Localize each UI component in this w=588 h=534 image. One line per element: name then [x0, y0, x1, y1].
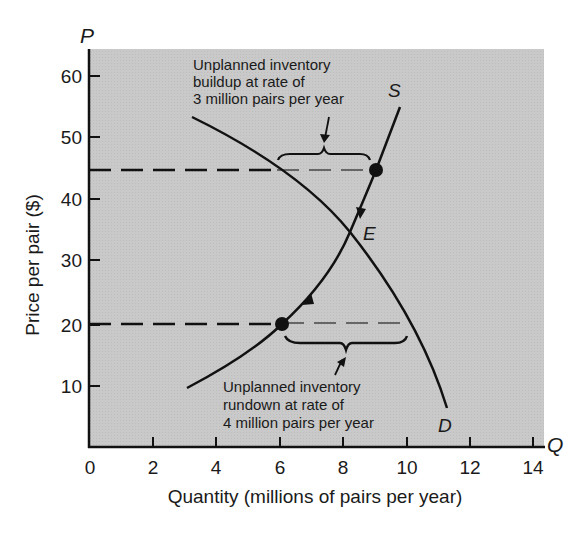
rundown-line-1: Unplanned inventory [223, 378, 361, 395]
buildup-line-3: 3 million pairs per year [193, 90, 344, 107]
supply-demand-chart: 60 50 40 30 20 10 0 2 4 6 8 10 12 14 P Q… [0, 0, 588, 534]
buildup-line-1: Unplanned inventory [193, 56, 331, 73]
x-tick-labels: 0 2 4 6 8 10 12 14 [85, 457, 544, 478]
y-tick-20: 20 [61, 315, 82, 336]
x-axis-title: Quantity (millions of pairs per year) [168, 486, 463, 507]
x-axis-symbol: Q [547, 433, 563, 456]
demand-label: D [438, 415, 452, 436]
x-tick-12: 12 [459, 457, 480, 478]
point-low-price [275, 317, 289, 331]
y-tick-30: 30 [61, 250, 82, 271]
x-tick-10: 10 [396, 457, 417, 478]
x-tick-2: 2 [148, 457, 159, 478]
y-tick-10: 10 [61, 376, 82, 397]
y-tick-labels: 60 50 40 30 20 10 [61, 66, 82, 397]
x-tick-4: 4 [211, 457, 222, 478]
y-axis-title: Price per pair ($) [22, 194, 43, 336]
buildup-line-2: buildup at rate of [193, 73, 306, 90]
y-axis-symbol: P [80, 24, 94, 47]
rundown-line-3: 4 million pairs per year [223, 414, 374, 431]
point-high-price [369, 163, 383, 177]
x-tick-0: 0 [85, 457, 96, 478]
y-tick-60: 60 [61, 66, 82, 87]
rundown-line-2: rundown at rate of [223, 396, 345, 413]
x-tick-14: 14 [522, 457, 544, 478]
x-tick-8: 8 [338, 457, 349, 478]
supply-label: S [388, 80, 401, 101]
equilibrium-label: E [363, 223, 376, 244]
y-tick-50: 50 [61, 127, 82, 148]
x-tick-6: 6 [275, 457, 286, 478]
y-tick-40: 40 [61, 189, 82, 210]
